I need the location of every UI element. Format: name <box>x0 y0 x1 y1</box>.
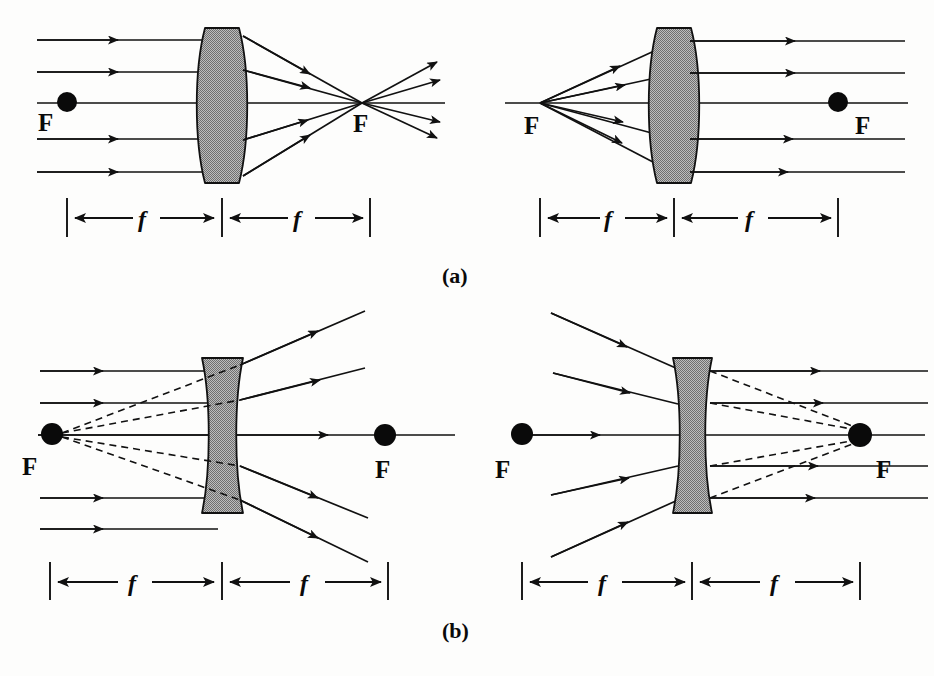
focal-label-b-left-near: F <box>22 453 37 480</box>
figure-canvas: F F f f <box>0 0 934 676</box>
focal-point-dot-left <box>511 423 533 445</box>
dimension-bar <box>522 562 860 600</box>
focal-length-label-b-left-2: f <box>300 570 310 596</box>
focal-point-dot-left <box>57 92 77 112</box>
converging-lens <box>197 28 248 183</box>
focal-label-a-left-near: F <box>38 109 53 136</box>
focal-point-dot-right <box>848 423 872 447</box>
subpanel-a-left <box>37 28 445 237</box>
converging-lens <box>649 28 700 183</box>
subpanel-a-right <box>505 28 908 237</box>
focal-point-dot-left <box>41 423 63 445</box>
subpanel-b-left <box>38 311 455 600</box>
panel-caption-a: (a) <box>442 263 468 288</box>
panel-caption-b: (b) <box>442 618 469 643</box>
focal-point-dot-right <box>828 92 848 112</box>
focal-length-label-b-right-2: f <box>770 570 780 596</box>
outgoing-rays <box>240 311 368 562</box>
focal-label-b-left-far: F <box>375 456 390 483</box>
optics-figure: F F f f <box>0 0 934 676</box>
focal-length-label-a-right-1: f <box>604 206 614 232</box>
focal-label-a-right-far: F <box>855 112 870 139</box>
focal-length-label-b-right-1: f <box>598 570 608 596</box>
focal-length-label-a-left-1: f <box>138 206 148 232</box>
dimension-bar <box>50 562 388 600</box>
dimension-bar <box>540 198 838 237</box>
focal-length-label-b-left-1: f <box>128 570 138 596</box>
post-focus-rays <box>362 62 440 138</box>
focal-label-a-right-near: F <box>524 112 539 139</box>
diverging-lens <box>673 358 712 513</box>
focal-label-b-right-far: F <box>876 456 891 483</box>
focal-length-label-a-left-2: f <box>293 206 303 232</box>
focal-point-dot-right <box>374 424 396 446</box>
dimension-bar <box>67 198 370 237</box>
focal-label-b-right-near: F <box>495 456 510 483</box>
focal-label-a-left-far: F <box>353 110 368 137</box>
subpanel-b-right <box>511 313 928 600</box>
refracted-rays <box>243 36 362 176</box>
outgoing-rays <box>690 41 905 172</box>
incoming-rays <box>40 371 218 529</box>
focal-length-label-a-right-2: f <box>745 206 755 232</box>
diverging-lens <box>202 358 243 513</box>
